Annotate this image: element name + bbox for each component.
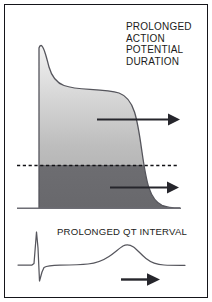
action-potential-label: PROLONGED ACTION POTENTIAL DURATION (126, 21, 192, 67)
qt-interval-arrow-icon (121, 273, 160, 285)
qt-interval-label: PROLONGED QT INTERVAL (57, 226, 187, 238)
action-potential-label-line-4: DURATION (126, 56, 192, 68)
action-potential-label-line-2: ACTION (126, 33, 192, 45)
action-potential-label-line-1: PROLONGED (126, 21, 192, 33)
action-potential-label-line-3: POTENTIAL (126, 44, 192, 56)
ecg-trace (18, 232, 185, 281)
figure-root: PROLONGED ACTION POTENTIAL DURATION PROL… (0, 0, 212, 302)
